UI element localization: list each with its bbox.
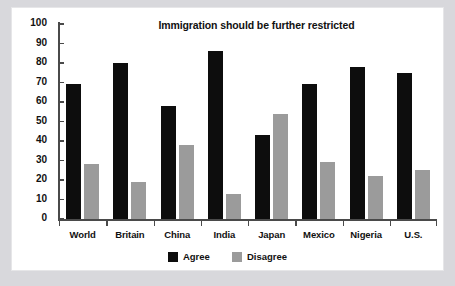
bar-agree-china — [161, 106, 176, 219]
bar-disagree-japan — [273, 114, 288, 219]
legend-label-agree: Agree — [183, 251, 210, 262]
x-axis-tick-mark — [248, 219, 295, 227]
bar-agree-japan — [255, 135, 270, 219]
bar-group — [248, 24, 295, 219]
x-axis-ticks — [59, 219, 437, 227]
legend-item-disagree[interactable]: Disagree — [232, 251, 287, 262]
bar-disagree-world — [84, 164, 99, 219]
bar-agree-world — [66, 84, 81, 219]
y-axis-tick-label: 90 — [36, 37, 47, 48]
bar-agree-india — [208, 51, 223, 219]
y-axis-tick-label: 30 — [36, 154, 47, 165]
bar-disagree-india — [226, 194, 241, 219]
x-axis-label-india: India — [201, 229, 248, 240]
bar-disagree-china — [179, 145, 194, 219]
bar-group — [295, 24, 342, 219]
legend-swatch-disagree — [232, 252, 242, 262]
bar-agree-mexico — [302, 84, 317, 219]
y-axis-tick-label: 20 — [36, 173, 47, 184]
y-axis-tick-label: 100 — [30, 17, 47, 28]
x-axis-label-world: World — [59, 229, 106, 240]
bar-group — [343, 24, 390, 219]
bar-agree-us — [397, 73, 412, 219]
x-axis-label-nigeria: Nigeria — [343, 229, 390, 240]
bar-group — [390, 24, 437, 219]
y-axis-tick-label: 40 — [36, 134, 47, 145]
x-axis-tick-mark — [295, 219, 342, 227]
legend-swatch-agree — [168, 252, 178, 262]
x-axis-tick-mark — [59, 219, 106, 227]
bar-group — [201, 24, 248, 219]
bar-agree-nigeria — [350, 67, 365, 219]
x-axis-tick-mark — [390, 219, 437, 227]
x-axis-tick-mark — [106, 219, 153, 227]
x-axis-labels: WorldBritainChinaIndiaJapanMexicoNigeria… — [59, 229, 437, 240]
chart-legend: AgreeDisagree — [12, 251, 443, 262]
legend-item-agree[interactable]: Agree — [168, 251, 210, 262]
y-axis-tick-label: 10 — [36, 193, 47, 204]
bar-group — [154, 24, 201, 219]
bar-disagree-mexico — [320, 162, 335, 219]
y-axis-tick-label: 70 — [36, 76, 47, 87]
x-axis-label-mexico: Mexico — [295, 229, 342, 240]
x-axis-label-us: U.S. — [390, 229, 437, 240]
y-axis-tick-label: 80 — [36, 56, 47, 67]
x-axis-label-japan: Japan — [248, 229, 295, 240]
x-axis-label-britain: Britain — [106, 229, 153, 240]
y-axis-tick-label: 50 — [36, 115, 47, 126]
bar-disagree-us — [415, 170, 430, 219]
bar-groups — [59, 24, 437, 219]
y-axis-tick-label: 0 — [41, 212, 47, 223]
y-axis-tick-label: 60 — [36, 95, 47, 106]
bar-group — [59, 24, 106, 219]
x-axis-tick-mark — [154, 219, 201, 227]
x-axis-tick-mark — [201, 219, 248, 227]
bar-agree-britain — [113, 63, 128, 219]
bar-group — [106, 24, 153, 219]
legend-label-disagree: Disagree — [247, 251, 287, 262]
x-axis-tick-mark — [343, 219, 390, 227]
bar-disagree-britain — [131, 182, 146, 219]
x-axis-label-china: China — [154, 229, 201, 240]
chart-figure: Immigration should be further restricted… — [12, 8, 443, 270]
bar-disagree-nigeria — [368, 176, 383, 219]
